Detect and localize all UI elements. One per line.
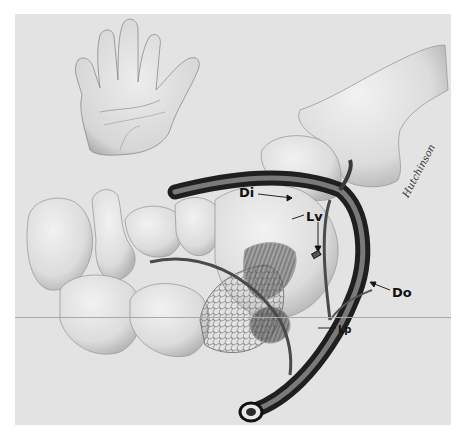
illustration-panel: Di Lv Do Lp Hutchinson [15,14,451,425]
anatomical-illustration [15,14,451,425]
carpal-bones [27,190,221,357]
label-lp: Lp [338,325,352,335]
scan-line [15,317,451,318]
label-lv: Lv [306,210,323,223]
label-di: Di [239,186,254,199]
hand-drawing [75,19,199,155]
label-do: Do [392,286,412,299]
